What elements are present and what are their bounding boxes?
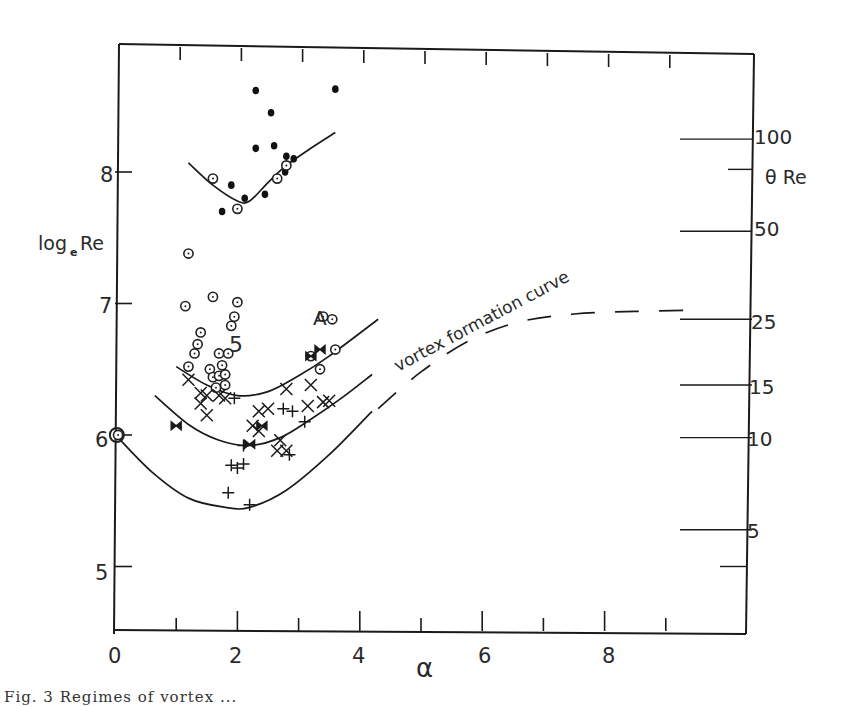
filled-dot-marker [268,109,275,117]
circled-dot-center [221,364,223,366]
circled-dot-center [319,368,321,370]
x-marker [280,383,292,395]
circled-dot-center [209,368,211,370]
right-axis-label: θ Re [765,166,807,188]
circled-dot-center [285,164,287,166]
circled-dot-center [276,178,278,180]
y-axis-label-tail: Re [80,232,104,254]
data-markers [110,85,340,510]
filled-dot-marker [252,87,259,95]
filled-dot-marker [262,191,269,199]
plus-marker [286,405,298,417]
x-axis-ticks [115,611,666,631]
circled-dot-center [218,375,220,377]
x-tick-label: 4 [352,644,365,668]
y-tick-label: 6 [95,428,108,452]
right-tick-label: 10 [747,427,772,451]
circled-dot-center [187,366,189,368]
circled-dot-center [117,434,119,436]
right-axis-ticks [680,139,752,566]
right-tick-label: 15 [749,375,774,399]
plus-marker [222,487,234,499]
right-tick-label: 5 [747,519,760,543]
figure-caption: Fig. 3 Regimes of vortex ... [4,688,237,706]
x-marker [302,400,314,412]
circled-dot-center [233,316,235,318]
x-marker [305,379,317,391]
x-tick-labels: 0 2 4 6 8 [108,644,615,668]
y-axis-label-subscript: e [70,246,77,259]
x-marker [262,403,274,415]
circled-dot-center [194,352,196,354]
circled-dot-center [197,343,199,345]
x-marker [182,374,194,386]
curve [176,319,378,396]
x-axis-label: α [416,653,433,683]
bowtie-marker [245,440,255,448]
y-tick-label: 7 [99,294,112,318]
plus-marker [225,459,237,471]
curves [118,133,696,509]
circled-dot-center [212,296,214,298]
top-axis-ticks [180,47,670,68]
circled-dot-center [334,349,336,351]
filled-dot-marker [290,155,297,163]
filled-dot-marker [283,152,290,160]
filled-dot-marker [228,181,235,189]
circled-dot-center [331,318,333,320]
circled-dot-center [212,178,214,180]
filled-dot-marker [219,208,226,216]
filled-dot-marker [241,195,248,203]
filled-dot-marker [252,145,259,153]
circled-dot-center [236,301,238,303]
curve [188,133,335,204]
circled-dot-center [187,253,189,255]
x-marker [271,445,283,457]
circled-dot-center [236,208,238,210]
circled-dot-center [224,384,226,386]
circled-dot-center [224,374,226,376]
circled-dot-center [212,376,214,378]
right-tick-label: 50 [754,217,779,241]
circled-dot-center [215,387,217,389]
x-tick-label: 2 [229,644,242,668]
x-marker [253,405,265,417]
circled-dot-center [230,325,232,327]
filled-dot-marker [271,142,278,150]
y-tick-label: 8 [100,163,113,187]
right-tick-label: 25 [751,310,776,334]
filled-dot-marker [332,85,339,93]
circled-dot-center [218,352,220,354]
y-axis-label: log e Re [38,232,104,259]
plus-marker [277,403,289,415]
annotation-5: 5 [229,332,243,357]
annotation-A: A [313,306,327,330]
x-marker [195,397,207,409]
bowtie-marker [315,346,325,354]
curve [118,411,372,509]
circled-dot-center [184,305,186,307]
right-tick-label: 100 [754,125,792,149]
y-tick-labels: 5 6 7 8 [95,163,113,585]
x-marker [201,409,213,421]
circled-dot-center [200,331,202,333]
x-tick-label: 6 [478,644,491,668]
vortex-formation-annotation: vortex formation curve [390,266,572,375]
y-axis-label-main: log [38,232,67,254]
x-tick-label: 8 [602,644,615,668]
y-tick-label: 5 [95,561,108,585]
bowtie-marker [171,422,181,430]
x-tick-label: 0 [108,644,121,668]
